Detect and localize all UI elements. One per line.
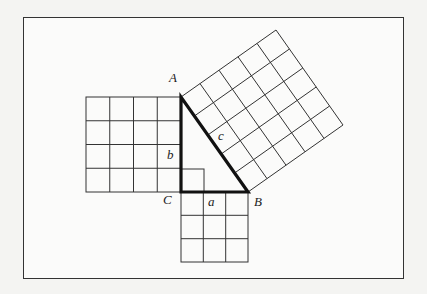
right-angle-marker [181, 169, 204, 192]
side-a-label: a [208, 194, 215, 209]
side-c-label: c [218, 128, 224, 143]
square-b-grid [86, 97, 181, 192]
side-b-label: b [167, 147, 174, 162]
square-a-grid [181, 192, 248, 262]
pythagoras-diagram: A C B b a c [0, 0, 427, 294]
vertex-c-label: C [163, 192, 172, 207]
square-c-grid [181, 30, 343, 192]
right-triangle [181, 97, 248, 192]
figure: A C B b a c [0, 0, 427, 294]
vertex-a-label: A [168, 70, 177, 85]
vertex-b-label: B [254, 194, 262, 209]
